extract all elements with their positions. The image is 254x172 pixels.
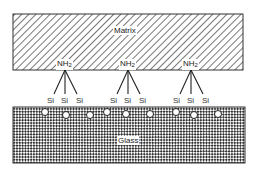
surface-site-circle: [173, 109, 180, 116]
silicon-label: Si: [173, 96, 180, 105]
silicon-label: Si: [61, 96, 68, 105]
glass-label: Glass: [117, 136, 139, 145]
silicon-label: Si: [139, 96, 146, 105]
surface-site-circle: [123, 111, 130, 118]
amine-label-1: NH2: [56, 59, 73, 70]
surface-site-circle: [104, 109, 111, 116]
silicon-label: Si: [202, 96, 209, 105]
surface-site-circle: [63, 112, 70, 119]
surface-site-circle: [147, 111, 154, 118]
amine-label-3: NH2: [182, 59, 199, 70]
surface-site-circle: [191, 112, 198, 119]
silicon-label: Si: [110, 96, 117, 105]
bond-lines: [54, 70, 203, 94]
surface-site-circle: [87, 112, 94, 119]
surface-site-circle: [42, 109, 49, 116]
surface-site-circle: [215, 111, 222, 118]
amine-label-2: NH2: [119, 59, 136, 70]
silicon-label: Si: [124, 96, 131, 105]
silicon-label: Si: [76, 96, 83, 105]
silicon-label: Si: [187, 96, 194, 105]
silicon-label: Si: [47, 96, 54, 105]
matrix-label: Matrix: [113, 26, 137, 35]
